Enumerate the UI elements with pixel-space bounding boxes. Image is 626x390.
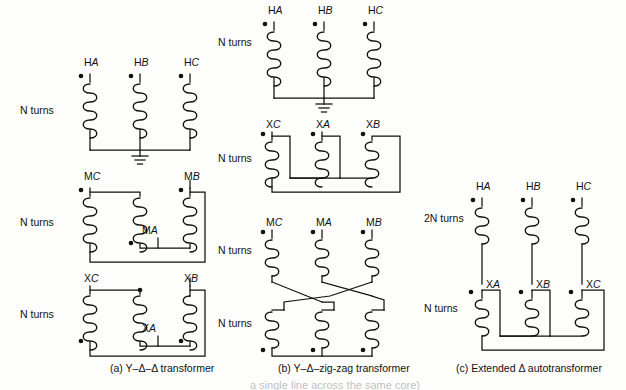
turns-label-b-zigzag-upper: N turns: [218, 244, 252, 256]
polarity-dot: [261, 132, 266, 137]
panel-c-series-winding: [471, 198, 589, 284]
polarity-dot: [313, 22, 318, 27]
terminal-label-XB: XB: [366, 118, 380, 130]
terminal-label-MB: MB: [184, 170, 200, 182]
panel-c-delta-x-winding: [469, 290, 604, 350]
terminal-label-HA: HA: [268, 4, 283, 16]
terminal-label-MC: MC: [84, 170, 101, 182]
polarity-dot: [311, 132, 316, 137]
panel-a-delta-m-winding: [79, 180, 205, 262]
terminal-label-XA: XA: [486, 278, 500, 290]
polarity-dot: [179, 74, 184, 79]
terminal-label-MC: MC: [266, 216, 283, 228]
panel-a: HA HB HC MC MA MB XC XA XB N turns N tur…: [20, 56, 215, 374]
polarity-dot: [469, 290, 474, 295]
polarity-dot: [179, 339, 184, 344]
panel-a-delta-x-winding: [79, 278, 205, 356]
turns-label-c-bottom: N turns: [424, 302, 458, 314]
polarity-dot: [571, 198, 576, 203]
polarity-dot: [569, 290, 574, 295]
polarity-dot: [138, 288, 143, 293]
polarity-dot: [129, 74, 134, 79]
ground-symbol: [132, 150, 148, 164]
terminal-label-XB: XB: [536, 278, 550, 290]
polarity-dot: [361, 230, 366, 235]
panel-c-caption: (c) Extended Δ autotransformer: [456, 362, 602, 374]
panel-c: HA HB HC XA XB XC 2N turns N turns (c) E…: [424, 180, 604, 374]
panel-a-caption: (a) Y–Δ–Δ transformer: [110, 362, 215, 374]
terminal-label-HC: HC: [576, 180, 592, 192]
terminal-label-HC: HC: [368, 4, 384, 16]
terminal-label-HB: HB: [526, 180, 541, 192]
figure-canvas: HA HB HC MC MA MB XC XA XB N turns N tur…: [0, 0, 626, 390]
turns-label-a-middle: N turns: [20, 216, 54, 228]
terminal-label-XC: XC: [266, 118, 281, 130]
turns-label-b-zigzag-lower: N turns: [218, 317, 252, 329]
polarity-dot: [79, 339, 84, 344]
turns-label-c-top: 2N turns: [424, 212, 464, 224]
ground-symbol: [316, 98, 332, 112]
turns-label-b-middle: N turns: [218, 152, 252, 164]
page-tail-text: a single line across the same core): [250, 379, 420, 390]
polarity-dot: [263, 22, 268, 27]
terminal-label-XC: XC: [586, 278, 601, 290]
panel-a-wye-winding: [79, 74, 197, 164]
terminal-label-MA: MA: [316, 216, 332, 228]
polarity-dot: [261, 230, 266, 235]
polarity-dot: [363, 22, 368, 27]
polarity-dot: [471, 198, 476, 203]
turns-label-b-top: N turns: [218, 36, 252, 48]
polarity-dot: [261, 348, 266, 353]
polarity-dot: [79, 74, 84, 79]
polarity-dot: [311, 348, 316, 353]
polarity-dot: [361, 132, 366, 137]
terminal-label-HA: HA: [476, 180, 491, 192]
polarity-dot: [519, 290, 524, 295]
terminal-label-MB: MB: [366, 216, 382, 228]
terminal-label-XB: XB: [184, 272, 198, 284]
turns-label-a-bottom: N turns: [20, 308, 54, 320]
panel-b-zigzag-winding: [261, 230, 384, 356]
polarity-dot: [79, 188, 84, 193]
terminal-label-HA: HA: [84, 56, 99, 68]
terminal-label-HB: HB: [134, 56, 149, 68]
polarity-dot: [361, 348, 366, 353]
panel-b: HA HB HC XC XA XB MC MA MB N turns N tur…: [218, 4, 410, 374]
panel-b-caption: (b) Y–Δ–zig-zag transformer: [278, 362, 410, 374]
terminal-label-HB: HB: [318, 4, 333, 16]
terminal-label-XA: XA: [316, 118, 330, 130]
panel-b-delta-x-winding: [261, 132, 400, 192]
panel-b-wye-winding: [263, 22, 381, 112]
terminal-label-XA: XA: [142, 322, 156, 334]
transformer-winding-figure: HA HB HC MC MA MB XC XA XB N turns N tur…: [0, 0, 626, 390]
polarity-dot: [129, 241, 134, 246]
polarity-dot: [179, 188, 184, 193]
terminal-label-XC: XC: [84, 272, 99, 284]
polarity-dot: [311, 230, 316, 235]
polarity-dot: [521, 198, 526, 203]
terminal-label-MA: MA: [142, 224, 158, 236]
turns-label-a-top: N turns: [20, 104, 54, 116]
terminal-label-HC: HC: [184, 56, 200, 68]
